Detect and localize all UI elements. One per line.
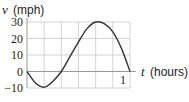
y-tick-label: 10	[11, 48, 23, 62]
y-axis-unit: (mph)	[13, 3, 44, 17]
y-tick-label: 20	[11, 32, 23, 46]
y-tick-label: 30	[11, 15, 23, 29]
grid	[27, 22, 130, 88]
y-tick-label: −10	[4, 81, 23, 95]
velocity-chart: 3020100−10 1 v (mph) t (hours)	[0, 0, 189, 102]
x-axis-var: t	[141, 64, 145, 79]
y-tick-label: 0	[17, 65, 23, 79]
y-axis-var: v	[2, 2, 8, 17]
x-tick-labels: 1	[120, 73, 126, 87]
x-axis-unit: (hours)	[150, 65, 188, 79]
x-tick-label: 1	[120, 73, 126, 87]
y-tick-labels: 3020100−10	[4, 15, 23, 95]
